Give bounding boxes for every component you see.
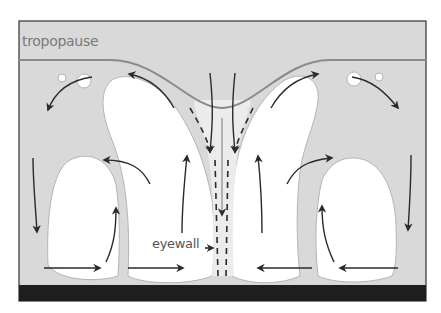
outflow-puff-left-large	[77, 74, 91, 88]
eyewall-label: eyewall	[152, 236, 199, 251]
outer-left-cell	[48, 156, 120, 279]
outflow-puff-right-small	[375, 73, 383, 81]
tropopause-label: tropopause	[22, 33, 98, 49]
ground-bar	[19, 285, 426, 301]
outflow-puff-left-small	[58, 74, 66, 82]
